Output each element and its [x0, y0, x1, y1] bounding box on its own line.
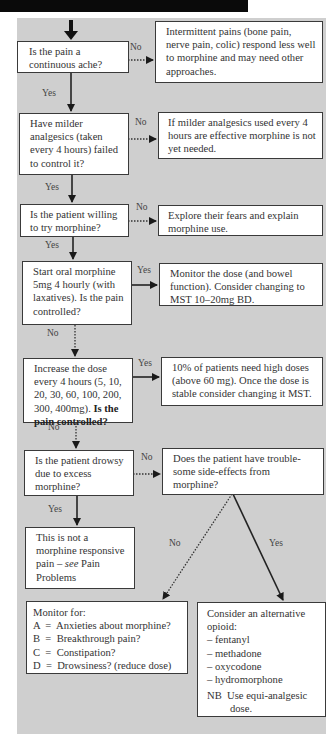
question-text: Start oral morphine 5mg 4 hourly (with l…: [33, 266, 124, 317]
opioid-item: – fentanyl: [207, 633, 319, 646]
monitor-title: Monitor for:: [33, 606, 181, 619]
no-label: No: [169, 538, 181, 548]
monitor-item: D = Drowsiness? (reduce dose): [33, 659, 181, 672]
answer-text: If milder analgesics used every 4 hours …: [168, 117, 316, 154]
answer-monitor-dose: Monitor the dose (and bowel function). C…: [159, 263, 323, 306]
answer-high-doses: 10% of patients need high doses (above 6…: [161, 357, 323, 406]
question-text: Is the pain a continuous ache?: [29, 46, 102, 70]
monitor-item: A = Anxieties about morphine?: [33, 619, 181, 632]
answer-explore-fears: Explore their fears and explain morphine…: [158, 205, 323, 236]
yes-label: Yes: [138, 358, 152, 368]
opioid-item: – hydromorphone: [207, 673, 319, 686]
header-bar: [0, 0, 248, 12]
opioid-list: – fentanyl – methadone – oxycodone – hyd…: [207, 633, 319, 686]
see-reference: see: [65, 558, 79, 569]
yes-label: Yes: [269, 538, 283, 548]
answer-text: 10% of patients need high doses (above 6…: [172, 362, 312, 399]
no-label: No: [136, 202, 148, 212]
yes-label: Yes: [45, 182, 59, 192]
opioid-item: – methadone: [207, 647, 319, 660]
question-milder-analgesics: Have milder analgesics (taken every 4 ho…: [19, 113, 129, 175]
alternative-title: Consider an alternative opioid:: [207, 607, 319, 633]
question-text: Is the patient drowsy due to excess morp…: [35, 455, 124, 492]
answer-not-morphine-responsive: This is not a morphine responsive pain –…: [25, 527, 135, 589]
question-willing-morphine: Is the patient willing to try morphine?: [20, 204, 129, 237]
question-increase-dose: Increase the dose every 4 hours (5, 10, …: [23, 358, 133, 423]
yes-label: Yes: [42, 88, 56, 98]
question-drowsy: Is the patient drowsy due to excess morp…: [24, 450, 134, 496]
no-label: No: [47, 328, 59, 338]
question-side-effects: Does the patient have trouble-some side-…: [162, 448, 324, 495]
yes-label: Yes: [137, 265, 151, 275]
monitor-for-box: Monitor for: A = Anxieties about morphin…: [26, 601, 188, 674]
answer-text: Monitor the dose (and bowel function). C…: [170, 268, 305, 305]
answer-text: Intermittent pains (bone pain, nerve pai…: [166, 26, 315, 77]
monitor-list: A = Anxieties about morphine? B = Breakt…: [33, 619, 181, 672]
answer-milder-effective: If milder analgesics used every 4 hours …: [158, 112, 323, 159]
question-text: Is the patient willing to try morphine?: [30, 209, 117, 233]
yes-label: Yes: [48, 504, 62, 514]
answer-intermittent-pains: Intermittent pains (bone pain, nerve pai…: [155, 21, 323, 83]
opioid-item: – oxycodone: [207, 660, 319, 673]
question-text: Does the patient have trouble-some side-…: [173, 453, 301, 490]
yes-label: Yes: [45, 240, 59, 250]
no-label: No: [130, 42, 142, 52]
equi-analgesic-note: NB Use equi-analgesic dose.: [207, 689, 319, 715]
alternative-opioid-box: Consider an alternative opioid: – fentan…: [197, 602, 326, 717]
question-start-oral-morphine: Start oral morphine 5mg 4 hourly (with l…: [22, 261, 132, 325]
question-continuous-ache: Is the pain a continuous ache?: [17, 41, 129, 73]
no-label: No: [48, 422, 60, 432]
question-text: Have milder analgesics (taken every 4 ho…: [30, 118, 118, 169]
no-label: No: [141, 452, 153, 462]
monitor-item: C = Constipation?: [33, 646, 181, 659]
answer-text: Explore their fears and explain morphine…: [168, 210, 299, 234]
monitor-item: B = Breakthrough pain?: [33, 632, 181, 645]
no-label: No: [135, 117, 147, 127]
